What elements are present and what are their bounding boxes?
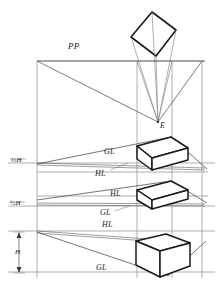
figure-drawing-canvas: [0, 0, 222, 284]
eye-sight-lines: [37, 61, 202, 123]
station-height-label-1: ⅓H: [11, 157, 22, 164]
leader-gl-2: [114, 206, 130, 211]
horizon-line-label-1: HL: [95, 170, 106, 178]
vanish-bottom-2: [37, 203, 205, 204]
ground-line-label-1: GL: [104, 148, 115, 156]
station-height-label-2: ½H: [10, 200, 21, 207]
height-arrow-top: [17, 232, 22, 238]
horizon-line-label-3: HL: [102, 221, 113, 229]
ground-line-label-2: GL: [100, 209, 111, 217]
height-dimension-label: H: [15, 249, 20, 256]
eye-point-label: E: [160, 122, 165, 130]
station-height-ticks: [9, 159, 26, 202]
leader-hl-1: [110, 163, 128, 170]
sightline-to-right-vanish: [158, 61, 202, 122]
perspective-construction-figure: PP E GL HL ⅓H HL ½H GL HL H GL: [0, 0, 222, 284]
eye-point-marker: [157, 121, 159, 123]
horizon-line-label-2: HL: [110, 190, 121, 198]
plan-view-group: [131, 12, 176, 122]
ground-line-label-3: GL: [96, 264, 107, 272]
perspective-block-3: [8, 231, 215, 277]
picture-plane-label: PP: [68, 42, 80, 51]
